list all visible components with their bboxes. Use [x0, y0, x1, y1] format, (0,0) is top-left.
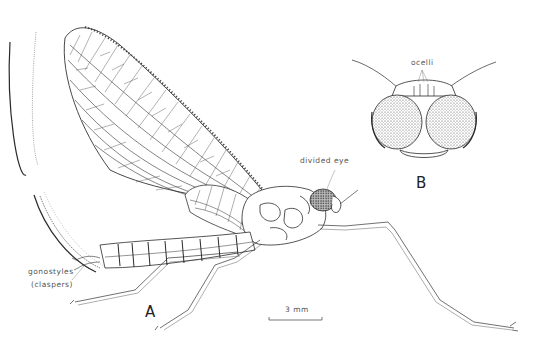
label-gonostyles: gonostyles: [28, 267, 74, 276]
panel-label-b: B: [416, 174, 426, 192]
head-lateral: [310, 189, 358, 213]
label-ocelli: ocelli: [411, 58, 434, 67]
scale-bar-label: 3 mm: [285, 305, 309, 314]
mayfly-illustration: [0, 0, 544, 349]
label-claspers: (claspers): [31, 280, 73, 289]
head-frontal: [352, 60, 496, 158]
label-divided-eye: divided eye: [300, 156, 349, 165]
scale-bar: [269, 317, 322, 320]
panel-label-a: A: [145, 303, 155, 321]
abdomen: [100, 232, 255, 268]
gonostyles: [72, 256, 100, 270]
forewing: [64, 27, 270, 205]
